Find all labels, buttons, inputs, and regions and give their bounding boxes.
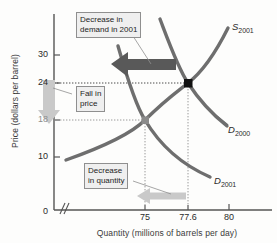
- x-axis-break-icon: [60, 203, 69, 214]
- equilibrium-marker-2001: [142, 117, 150, 125]
- callout-fall-in-price: Fall in price: [76, 86, 105, 112]
- curve-label-demand2001-sub: 2001: [221, 181, 236, 188]
- callout-decrease-in-demand: Decrease in demand in 2001: [76, 12, 141, 38]
- leader-line-fall-in-price: [53, 88, 72, 94]
- leader-line-demand-2000: [213, 113, 228, 125]
- callout-decrease-in-quantity: Decrease in quantity: [84, 163, 128, 189]
- curve-label-demand-2000: D2000: [228, 124, 250, 137]
- y-axis-title: Price (dollars per barrel): [10, 41, 20, 161]
- x-axis-title: Quantity (millions of barrels per day): [62, 228, 272, 238]
- x-tick-label-80: 80: [215, 212, 243, 222]
- demand-curve-2000: [160, 19, 227, 126]
- curve-label-supply-2001: S2001: [232, 21, 254, 34]
- oil-market-supply-demand-figure: Price (dollars per barrel) Quantity (mil…: [0, 0, 277, 243]
- curve-label-supply-sub: 2001: [238, 27, 253, 34]
- y-tick-label-0: 0: [22, 206, 48, 216]
- x-tick-label-75: 75: [131, 212, 159, 222]
- x-tick-label-77-6: 77.6: [171, 212, 205, 222]
- y-tick-label-24: 24: [22, 77, 48, 87]
- equilibrium-marker-2000: [184, 79, 193, 88]
- curve-label-demand-2001: D2001: [214, 175, 236, 188]
- curve-label-demand2001-main: D: [214, 175, 221, 186]
- y-tick-label-18: 18: [22, 114, 48, 124]
- y-tick-label-10: 10: [22, 151, 48, 161]
- leader-line-decrease-quantity: [133, 181, 171, 194]
- curve-label-demand2000-main: D: [228, 124, 235, 135]
- curve-label-demand2000-sub: 2000: [235, 130, 250, 137]
- y-tick-label-30: 30: [22, 49, 48, 59]
- x-tick-marks: [145, 204, 229, 210]
